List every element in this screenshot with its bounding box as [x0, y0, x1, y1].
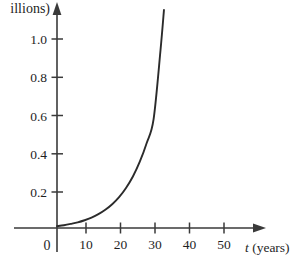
x-axis-label-unit: (years)	[252, 240, 289, 255]
y-tick-label: 0.6	[30, 109, 47, 124]
origin-label: 0	[44, 238, 51, 253]
y-tick-label: 1.0	[30, 32, 47, 47]
x-tick-label: 20	[114, 237, 128, 252]
y-axis-tick-labels: 1.0 0.8 0.6 0.4 0.2	[30, 32, 47, 200]
x-axis-tick-labels: 10 20 30 40 50	[79, 237, 231, 252]
x-tick-label: 50	[217, 237, 231, 252]
population-curve	[57, 10, 164, 226]
y-tick-label: 0.4	[30, 147, 47, 162]
x-tick-label: 30	[148, 237, 162, 252]
y-tick-label: 0.2	[30, 185, 47, 200]
x-tick-label: 10	[79, 237, 93, 252]
chart-figure: illions) 1.0 0.8 0.6 0.4 0.2	[0, 0, 308, 260]
y-axis-label: illions)	[10, 1, 50, 17]
x-tick-label: 40	[183, 237, 197, 252]
y-tick-label: 0.8	[30, 70, 47, 85]
exponential-growth-chart: illions) 1.0 0.8 0.6 0.4 0.2	[0, 0, 308, 260]
y-axis-arrow-icon	[53, 2, 62, 15]
x-axis-label: t (years)	[245, 240, 290, 255]
x-axis-arrow-icon	[253, 224, 266, 233]
